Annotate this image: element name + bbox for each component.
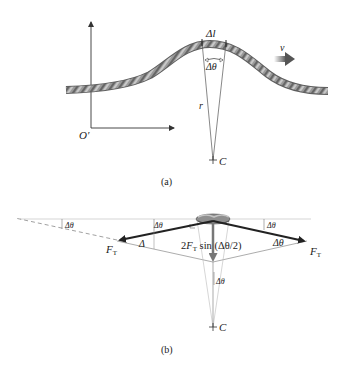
- tension-right-label: FT: [309, 245, 322, 259]
- radius-label: r: [199, 100, 203, 111]
- angle-label-right-top: Δθ: [266, 221, 276, 230]
- panel-b: Δθ Δθ Δ Δθ Δθ Δθ FT FT 2FT sin (Δθ/2) C …: [15, 214, 322, 356]
- center-label-b: C: [219, 321, 227, 333]
- arc-length-label: Δl: [205, 27, 216, 39]
- angle-label-center: Δθ: [215, 277, 225, 286]
- angle-label-a: Δθ: [205, 61, 217, 72]
- center-point-a: [209, 156, 217, 164]
- angle-label-right-inner: Δθ: [272, 237, 284, 248]
- wave-pulse-diagram: O′ Δl Δθ r C: [0, 0, 348, 371]
- origin-label: O′: [79, 129, 90, 141]
- angle-markers: [62, 219, 264, 285]
- angle-label-left-inner: Δ: [138, 238, 145, 249]
- velocity-label: v: [280, 42, 285, 53]
- panel-a-caption: (a): [161, 176, 172, 188]
- rope-pulse: [66, 44, 328, 91]
- tension-right-vector: [213, 221, 304, 241]
- coordinate-axes: [91, 22, 174, 128]
- panel-a: O′ Δl Δθ r C: [66, 22, 328, 188]
- panel-b-caption: (b): [161, 344, 173, 356]
- net-force-label: 2FT sin (Δθ/2): [181, 240, 242, 253]
- tension-left-label: FT: [105, 243, 118, 257]
- center-label-a: C: [219, 155, 227, 167]
- radius-lines: [202, 39, 226, 160]
- center-point-b: [209, 323, 217, 331]
- velocity-arrow: [274, 52, 295, 66]
- angle-label-left-top: Δθ: [153, 221, 163, 230]
- angle-label-far-left: Δθ: [64, 221, 74, 230]
- tension-left-vector: [120, 221, 213, 240]
